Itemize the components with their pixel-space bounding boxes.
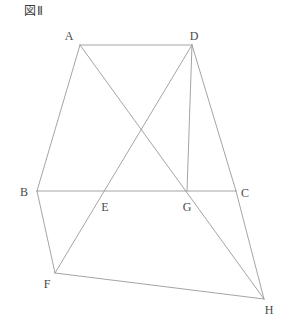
segment-d-f <box>55 45 192 273</box>
vertex-label-c: C <box>241 187 249 199</box>
vertex-label-d: D <box>190 30 199 42</box>
segment-d-c <box>192 45 236 191</box>
segment-b-f <box>37 191 55 273</box>
segment-layer <box>37 45 264 299</box>
segment-c-h <box>236 191 264 299</box>
vertex-label-a: A <box>65 30 74 42</box>
vertex-label-b: B <box>20 186 28 198</box>
vertex-label-e: E <box>101 201 108 213</box>
segment-f-h <box>55 273 264 299</box>
segment-a-h <box>80 45 264 299</box>
vertex-label-f: F <box>44 278 51 290</box>
segment-d-g <box>187 45 192 191</box>
vertex-label-h: H <box>265 304 274 316</box>
figure-page: 図Ⅱ ADBEGCFH <box>0 0 289 326</box>
segment-a-b <box>37 45 80 191</box>
vertex-label-g: G <box>183 201 192 213</box>
